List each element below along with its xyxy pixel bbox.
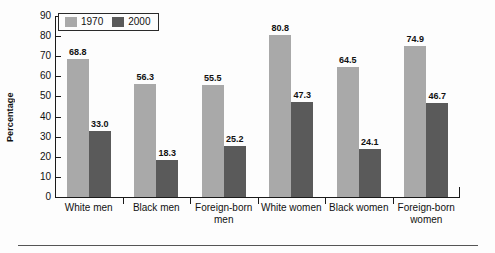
y-tick-mark <box>56 76 61 77</box>
category-label: Foreign-born women <box>387 202 467 226</box>
chart-figure: Percentage 0102030405060708090 68.833.05… <box>0 0 495 253</box>
page-divider-rule <box>18 245 478 246</box>
y-tick-mark <box>56 157 61 158</box>
y-tick-label: 10 <box>40 170 51 183</box>
bar-value-label: 74.9 <box>406 34 424 44</box>
bar-1970-2: 56.3 <box>134 84 156 197</box>
legend-label: 1970 <box>81 16 103 27</box>
y-tick-mark <box>56 177 61 178</box>
y-tick: 80 <box>55 36 61 37</box>
bar-value-label: 33.0 <box>91 119 109 129</box>
legend-swatch-1970 <box>65 17 77 27</box>
bar-value-label: 46.7 <box>428 91 446 101</box>
bar-value-label: 56.3 <box>136 72 154 82</box>
y-tick: 40 <box>55 117 61 118</box>
y-tick-label: 70 <box>40 49 51 62</box>
y-tick: 0 <box>55 197 61 198</box>
bar-value-label: 25.2 <box>226 134 244 144</box>
bar-1970-5: 64.5 <box>337 67 359 197</box>
y-tick: 60 <box>55 76 61 77</box>
bar-2000-2: 18.3 <box>156 160 178 197</box>
bar-2000-5: 24.1 <box>359 149 381 197</box>
legend-label: 2000 <box>128 16 150 27</box>
bar-1970-1: 68.8 <box>67 59 89 197</box>
bar-2000-3: 25.2 <box>224 146 246 197</box>
bar-value-label: 47.3 <box>293 90 311 100</box>
y-tick-mark <box>56 197 61 198</box>
y-tick-label: 30 <box>40 130 51 143</box>
y-tick-label: 50 <box>40 89 51 102</box>
y-tick: 20 <box>55 157 61 158</box>
y-tick: 30 <box>55 137 61 138</box>
bar-1970-3: 55.5 <box>202 85 224 197</box>
y-tick-mark <box>56 56 61 57</box>
y-tick: 70 <box>55 56 61 57</box>
y-axis-line <box>55 16 56 198</box>
y-tick-mark <box>56 96 61 97</box>
bar-value-label: 18.3 <box>158 148 176 158</box>
y-axis-title: Percentage <box>2 62 18 172</box>
x-axis-right-cap <box>459 187 460 198</box>
y-tick-mark <box>56 36 61 37</box>
bar-2000-4: 47.3 <box>291 102 313 197</box>
y-tick-label: 60 <box>40 69 51 82</box>
bar-value-label: 80.8 <box>271 23 289 33</box>
y-tick-label: 80 <box>40 29 51 42</box>
legend-item-2000: 2000 <box>112 16 150 27</box>
y-tick-label: 40 <box>40 110 51 123</box>
plot-area: 0102030405060708090 68.833.056.318.355.5… <box>55 16 460 198</box>
bar-2000-1: 33.0 <box>89 131 111 197</box>
chart-legend: 19702000 <box>58 13 159 31</box>
y-tick-mark <box>56 117 61 118</box>
y-tick-mark <box>56 137 61 138</box>
bar-2000-6: 46.7 <box>426 103 448 197</box>
bar-value-label: 64.5 <box>339 55 357 65</box>
legend-item-1970: 1970 <box>65 16 103 27</box>
bar-1970-4: 80.8 <box>269 35 291 197</box>
bar-1970-6: 74.9 <box>404 46 426 197</box>
y-tick: 50 <box>55 96 61 97</box>
bar-value-label: 24.1 <box>361 137 379 147</box>
bar-value-label: 68.8 <box>69 47 87 57</box>
y-tick-label: 90 <box>40 9 51 22</box>
legend-swatch-2000 <box>112 17 124 27</box>
y-tick: 10 <box>55 177 61 178</box>
bar-value-label: 55.5 <box>204 73 222 83</box>
y-tick-label: 20 <box>40 150 51 163</box>
